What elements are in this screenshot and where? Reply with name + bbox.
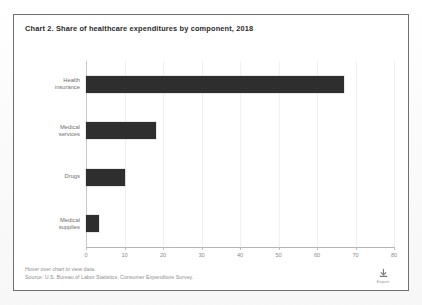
chart-footer: Hover over chart to view data. Source: U… <box>25 266 193 281</box>
bar[interactable] <box>86 76 344 93</box>
chart-plot-area[interactable]: 01020304050607080Health insuranceMedical… <box>14 15 410 292</box>
x-tick-label: 60 <box>314 252 320 258</box>
screenshot-page: Chart 2. Share of healthcare expenditure… <box>0 0 422 305</box>
source-text: Source: U.S. Bureau of Labor Statistics,… <box>25 274 193 281</box>
bar[interactable] <box>86 169 125 186</box>
x-tick-mark <box>356 247 357 250</box>
x-tick-label: 40 <box>237 252 243 258</box>
x-tick-mark <box>279 247 280 250</box>
x-tick-mark <box>240 247 241 250</box>
download-button[interactable]: Export <box>370 268 396 285</box>
x-tick-mark <box>202 247 203 250</box>
gridline <box>356 61 357 247</box>
x-tick-mark <box>394 247 395 250</box>
x-tick-mark <box>86 247 87 250</box>
chart-card: Chart 2. Share of healthcare expenditure… <box>13 14 409 291</box>
x-tick-mark <box>163 247 164 250</box>
x-tick-label: 50 <box>275 252 281 258</box>
bar[interactable] <box>86 122 156 139</box>
category-label: Drugs <box>20 174 80 181</box>
hover-hint-text: Hover over chart to view data. <box>25 266 193 273</box>
category-label: Health insurance <box>20 77 80 91</box>
x-tick-label: 30 <box>198 252 204 258</box>
category-label: Medical services <box>20 124 80 138</box>
x-tick-mark <box>317 247 318 250</box>
x-tick-label: 70 <box>352 252 358 258</box>
category-label: Medical supplies <box>20 217 80 231</box>
x-tick-label: 20 <box>160 252 166 258</box>
x-tick-label: 0 <box>84 252 87 258</box>
x-tick-label: 10 <box>121 252 127 258</box>
bar[interactable] <box>86 215 99 232</box>
download-label: Export <box>370 279 396 284</box>
download-icon <box>378 268 389 279</box>
gridline <box>394 61 395 247</box>
x-tick-label: 80 <box>391 252 397 258</box>
x-tick-mark <box>125 247 126 250</box>
